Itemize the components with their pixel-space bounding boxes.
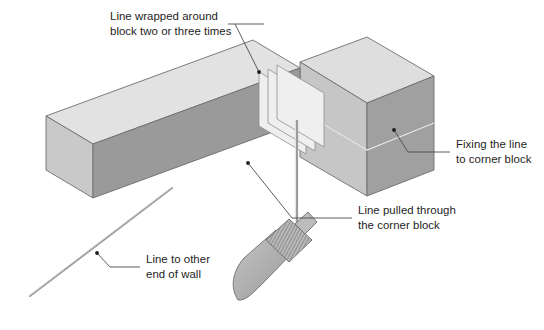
annotation-line-to-other-end-row1: Line to other	[146, 253, 210, 265]
annotation-line-wrapped-row1: Line wrapped around	[110, 10, 218, 22]
anchor-dot-other-end	[95, 251, 99, 255]
annotation-line-pulled-row2: the corner block	[358, 219, 440, 231]
anchor-dot-fixing	[392, 128, 396, 132]
annotation-line-wrapped-row2: block two or three times	[110, 25, 232, 37]
annotation-line-pulled-row1: Line pulled through	[358, 204, 456, 216]
annotation-fixing-line-row1: Fixing the line	[456, 138, 527, 150]
anchor-dot-pulled	[246, 161, 250, 165]
anchor-dot-wrapped	[257, 70, 261, 74]
annotation-fixing-line-row2: to corner block	[456, 153, 532, 165]
masonry-line-diagram: Line wrapped around block two or three t…	[0, 0, 544, 330]
annotation-line-to-other-end-row2: end of wall	[146, 268, 201, 280]
diagram-canvas: Line wrapped around block two or three t…	[0, 0, 544, 330]
